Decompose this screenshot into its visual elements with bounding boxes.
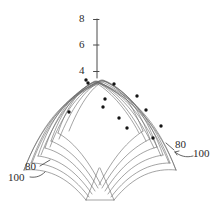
data-point bbox=[135, 94, 138, 97]
plot-background bbox=[0, 0, 222, 221]
data-point bbox=[151, 136, 154, 139]
x-tick-label-80: 80 bbox=[25, 161, 36, 172]
data-point bbox=[125, 126, 128, 129]
data-point bbox=[67, 110, 70, 113]
z-tick-label-6: 6 bbox=[79, 39, 85, 50]
data-point bbox=[144, 108, 147, 111]
data-point bbox=[112, 82, 115, 85]
surface-plot-canvas bbox=[0, 0, 222, 221]
surface-plot-figure: 8 6 4 80 100 80 100 bbox=[0, 0, 222, 221]
data-point bbox=[86, 81, 89, 84]
z-tick-label-8: 8 bbox=[79, 13, 85, 24]
y-tick-label-80: 80 bbox=[175, 139, 186, 150]
x-tick-label-100: 100 bbox=[8, 172, 25, 183]
data-point bbox=[159, 124, 162, 127]
y-tick-label-100: 100 bbox=[193, 148, 210, 159]
data-point bbox=[84, 78, 87, 81]
data-point bbox=[101, 105, 104, 108]
data-point bbox=[117, 116, 120, 119]
z-tick-label-4: 4 bbox=[79, 65, 85, 76]
data-point bbox=[103, 97, 106, 100]
